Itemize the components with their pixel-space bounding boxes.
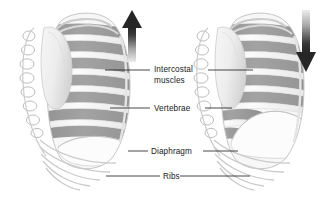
- anatomy-diagram: Intercostal muscles Vertebrae Diaphragm …: [0, 0, 333, 210]
- label-diaphragm: Diaphragm: [151, 147, 192, 156]
- diagram-canvas: Intercostal muscles Vertebrae Diaphragm …: [0, 0, 333, 210]
- label-vertebrae: Vertebrae: [154, 104, 191, 113]
- label-intercostal-muscles-line1: Intercostal: [154, 65, 193, 74]
- label-intercostal-muscles-line2: muscles: [154, 76, 185, 85]
- label-ribs: Ribs: [163, 172, 180, 181]
